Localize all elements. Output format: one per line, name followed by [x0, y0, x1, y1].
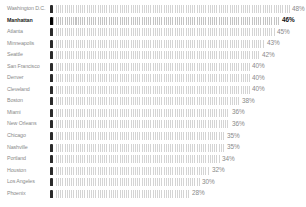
value-label: 36%: [232, 108, 245, 115]
value-label: 42%: [262, 51, 275, 58]
value-label: 43%: [267, 39, 280, 46]
person-figures-icon: [53, 51, 260, 59]
category-label: Washington D.C.: [7, 5, 45, 11]
value-label: 40%: [252, 62, 265, 69]
chart-row: Nashville35%: [0, 143, 306, 155]
category-label: Nashville: [7, 144, 28, 150]
value-label: 28%: [192, 189, 205, 196]
category-label: Phoenix: [7, 190, 25, 196]
chart-row: Washington D.C.48%: [0, 4, 306, 16]
chart-row: Portland34%: [0, 154, 306, 166]
category-label: New Orleans: [7, 120, 37, 126]
value-label: 45%: [277, 28, 290, 35]
pictogram-bar: [50, 86, 250, 94]
pictogram-bar: [50, 40, 265, 48]
chart-row: Manhattan46%: [0, 16, 306, 28]
pictogram-bar: [50, 120, 230, 128]
category-label: Minneapolis: [7, 40, 34, 46]
value-label: 48%: [292, 5, 305, 12]
value-label: 46%: [282, 16, 295, 23]
chart-row: Los Angeles30%: [0, 177, 306, 189]
chart-row: Phoenix28%: [0, 189, 306, 201]
chart-row: Houston32%: [0, 166, 306, 178]
value-label: 35%: [227, 132, 240, 139]
value-label: 35%: [227, 143, 240, 150]
person-figures-icon: [53, 109, 230, 117]
chart-row: San Francisco40%: [0, 62, 306, 74]
value-label: 40%: [252, 85, 265, 92]
category-label: San Francisco: [7, 63, 40, 69]
pictogram-bar: [50, 155, 220, 163]
category-label: Miami: [7, 109, 21, 115]
category-label: Denver: [7, 74, 23, 80]
person-figures-icon: [53, 40, 265, 48]
chart-row: Atlanta45%: [0, 27, 306, 39]
pictogram-bar: [50, 97, 240, 105]
value-label: 36%: [232, 120, 245, 127]
category-label: Portland: [7, 155, 26, 161]
pictogram-bar: [50, 63, 250, 71]
pictogram-bar: [50, 109, 230, 117]
person-figures-icon: [53, 28, 275, 36]
person-figures-icon: [53, 178, 200, 186]
pictogram-bar: [50, 28, 275, 36]
chart-row: Chicago35%: [0, 131, 306, 143]
category-label: Chicago: [7, 132, 26, 138]
value-label: 38%: [242, 97, 255, 104]
pictogram-bar-chart: Washington D.C.48%Manhattan46%Atlanta45%…: [0, 4, 306, 200]
pictogram-bar: [50, 51, 260, 59]
person-figures-icon: [53, 120, 230, 128]
pictogram-bar: [50, 17, 280, 25]
chart-row: Seattle42%: [0, 50, 306, 62]
category-label: Seattle: [7, 51, 23, 57]
category-label: Boston: [7, 97, 23, 103]
pictogram-bar: [50, 190, 190, 198]
pictogram-bar: [50, 144, 225, 152]
category-label: Cleveland: [7, 86, 30, 92]
person-figures-icon: [53, 86, 250, 94]
pictogram-bar: [50, 74, 250, 82]
chart-row: New Orleans36%: [0, 119, 306, 131]
person-figures-icon: [53, 74, 250, 82]
category-label: Atlanta: [7, 28, 23, 34]
chart-row: Minneapolis43%: [0, 39, 306, 51]
person-figures-icon: [53, 155, 220, 163]
chart-row: Cleveland40%: [0, 85, 306, 97]
pictogram-bar: [50, 178, 200, 186]
person-figures-icon: [53, 17, 280, 25]
value-label: 32%: [212, 166, 225, 173]
category-label: Manhattan: [7, 17, 33, 23]
value-label: 34%: [222, 155, 235, 162]
value-label: 30%: [202, 178, 215, 185]
value-label: 40%: [252, 74, 265, 81]
chart-row: Miami36%: [0, 108, 306, 120]
person-figures-icon: [53, 63, 250, 71]
pictogram-bar: [50, 5, 290, 13]
person-figures-icon: [53, 190, 190, 198]
person-figures-icon: [53, 5, 290, 13]
person-figures-icon: [53, 167, 210, 175]
pictogram-bar: [50, 132, 225, 140]
pictogram-bar: [50, 167, 210, 175]
chart-row: Boston38%: [0, 96, 306, 108]
person-figures-icon: [53, 97, 240, 105]
person-figures-icon: [53, 144, 225, 152]
chart-row: Denver40%: [0, 73, 306, 85]
category-label: Los Angeles: [7, 178, 35, 184]
category-label: Houston: [7, 167, 26, 173]
person-figures-icon: [53, 132, 225, 140]
